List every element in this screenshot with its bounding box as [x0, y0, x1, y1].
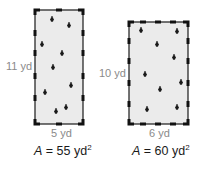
- right-area-label: A = 60 yd2: [132, 144, 190, 158]
- right-plot-rectangle: [129, 22, 188, 124]
- left-plot-rectangle: [35, 10, 83, 124]
- left-height-label: 11 yd: [6, 60, 32, 72]
- area-exponent: 2: [185, 143, 189, 152]
- right-height-label: 10 yd: [99, 67, 126, 79]
- right-width-label: 6 yd: [149, 127, 170, 139]
- left-area-label: A = 55 yd2: [34, 144, 92, 158]
- area-value: = 55 yd: [42, 144, 87, 158]
- area-exponent: 2: [87, 143, 91, 152]
- area-comparison-figure: 11 yd 5 yd A = 55 yd2 10 yd 6 yd A = 60 …: [0, 0, 201, 175]
- left-width-label: 5 yd: [51, 127, 72, 139]
- area-value: = 60 yd: [140, 144, 185, 158]
